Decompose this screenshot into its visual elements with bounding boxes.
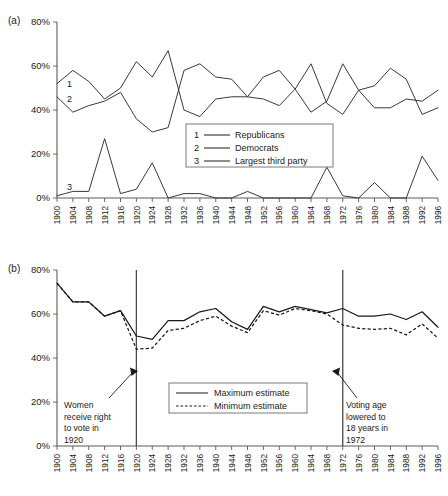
x-tick-label: 1948: [244, 454, 253, 473]
panel-a-party-vote-share: (a) 0%20%40%60%80% 123 19001904190819121…: [0, 0, 448, 250]
x-tick-label: 1980: [371, 206, 380, 225]
x-tick-label: 1984: [387, 454, 396, 473]
panel-b-voter-turnout: (b) 0%20%40%60%80% Womenreceive rightto …: [0, 250, 448, 496]
y-tick-label: 60%: [31, 308, 51, 319]
y-tick-label: 80%: [31, 16, 51, 27]
inline-series-label-2: 2: [67, 94, 72, 104]
y-tick-label: 40%: [31, 352, 51, 363]
y-tick-label: 0%: [36, 192, 50, 203]
inline-series-label-1: 1: [67, 79, 72, 89]
x-tick-label: 1940: [212, 454, 221, 473]
x-tick-label: 1984: [387, 206, 396, 225]
x-tick-label: 1916: [117, 206, 126, 225]
x-tick-label: 1928: [164, 454, 173, 473]
x-tick-label: 1936: [196, 454, 205, 473]
series-line-democrats: [57, 64, 438, 132]
y-tick-label: 0%: [36, 440, 50, 451]
y-tick-label: 20%: [31, 396, 51, 407]
legend-label-min: Minimum estimate: [214, 401, 287, 411]
x-tick-label: 1960: [291, 206, 300, 225]
x-tick-label: 1980: [371, 454, 380, 473]
annotation-suffrage-line-1: receive right: [64, 412, 111, 422]
x-tick-label: 1908: [85, 454, 94, 473]
legend-label-3: Largest third party: [235, 156, 308, 166]
panel-b-tag: (b): [8, 263, 20, 274]
y-tick-label: 60%: [31, 60, 51, 71]
x-tick-label: 1964: [307, 454, 316, 473]
x-tick-label: 1956: [275, 454, 284, 473]
x-tick-label: 1960: [291, 454, 300, 473]
panel-b-svg: (b) 0%20%40%60%80% Womenreceive rightto …: [0, 250, 448, 496]
x-tick-label: 1996: [434, 454, 443, 473]
series-line-max: [57, 283, 438, 339]
x-tick-label: 1944: [228, 206, 237, 225]
x-tick-label: 1908: [85, 206, 94, 225]
x-tick-label: 1968: [323, 206, 332, 225]
x-tick-label: 1976: [355, 206, 364, 225]
x-tick-label: 1968: [323, 454, 332, 473]
panel-a-tick-marks: [53, 22, 438, 202]
annotation-voting-age-line-3: 1972: [346, 435, 365, 445]
x-tick-label: 1952: [260, 206, 269, 225]
x-tick-label: 1988: [402, 454, 411, 473]
x-tick-label: 1932: [180, 206, 189, 225]
x-tick-label: 1904: [69, 454, 78, 473]
x-tick-label: 1900: [53, 454, 62, 473]
x-tick-label: 1976: [355, 454, 364, 473]
panel-b-reference-lines: [136, 270, 342, 446]
annotation-suffrage-line-3: 1920: [64, 435, 83, 445]
annotation-suffrage-line-2: to vote in: [64, 423, 99, 433]
x-tick-label: 1904: [69, 206, 78, 225]
legend-label-1: Republicans: [235, 130, 285, 140]
x-tick-label: 1924: [148, 454, 157, 473]
x-tick-label: 1944: [228, 454, 237, 473]
panel-a-inline-series-labels: 123: [67, 79, 72, 192]
x-tick-label: 1952: [260, 454, 269, 473]
panel-b-series-group: [57, 283, 438, 349]
x-tick-label: 1920: [133, 206, 142, 225]
x-tick-label: 1956: [275, 206, 284, 225]
panel-b-legend: Maximum estimateMinimum estimate: [169, 383, 307, 413]
legend-label-2: Democrats: [235, 143, 279, 153]
x-tick-label: 1992: [418, 206, 427, 225]
y-tick-label: 20%: [31, 148, 51, 159]
x-tick-label: 1988: [402, 206, 411, 225]
panel-a-svg: (a) 0%20%40%60%80% 123 19001904190819121…: [0, 0, 448, 250]
series-line-min: [57, 283, 438, 349]
legend-key-2: 2: [194, 143, 199, 153]
annotation-arrow-shaft-suffrage: [109, 372, 133, 398]
x-tick-label: 1936: [196, 206, 205, 225]
y-tick-label: 40%: [31, 104, 51, 115]
legend-key-1: 1: [194, 130, 199, 140]
panel-b-y-tick-labels: 0%20%40%60%80%: [31, 264, 51, 451]
x-tick-label: 1948: [244, 206, 253, 225]
panel-a-tag: (a): [8, 15, 20, 26]
x-tick-label: 1924: [148, 206, 157, 225]
annotation-arrow-shaft-voting-age: [337, 372, 357, 398]
x-tick-label: 1992: [418, 454, 427, 473]
two-panel-line-chart-figure: (a) 0%20%40%60%80% 123 19001904190819121…: [0, 0, 448, 496]
annotation-voting-age-line-2: 18 years in: [346, 423, 388, 433]
panel-a-x-tick-labels: 1900190419081912191619201924192819321936…: [53, 206, 443, 225]
annotation-suffrage-line-0: Women: [64, 400, 94, 410]
x-tick-label: 1964: [307, 206, 316, 225]
inline-series-label-3: 3: [67, 182, 72, 192]
legend-label-max: Maximum estimate: [214, 388, 290, 398]
legend-key-3: 3: [194, 156, 199, 166]
x-tick-label: 1912: [101, 454, 110, 473]
panel-b-x-tick-labels: 1900190419081912191619201924192819321936…: [53, 454, 443, 473]
panel-a-y-tick-labels: 0%20%40%60%80%: [31, 16, 51, 203]
annotation-voting-age-line-1: lowered to: [346, 412, 386, 422]
x-tick-label: 1940: [212, 206, 221, 225]
y-tick-label: 80%: [31, 264, 51, 275]
x-tick-label: 1912: [101, 206, 110, 225]
x-tick-label: 1972: [339, 454, 348, 473]
x-tick-label: 1996: [434, 206, 443, 225]
annotation-voting-age-line-0: Voting age: [346, 400, 387, 410]
x-tick-label: 1916: [117, 454, 126, 473]
panel-a-legend: 1Republicans2Democrats3Largest third par…: [186, 124, 333, 167]
x-tick-label: 1932: [180, 454, 189, 473]
x-tick-label: 1928: [164, 206, 173, 225]
x-tick-label: 1972: [339, 206, 348, 225]
x-tick-label: 1920: [133, 454, 142, 473]
